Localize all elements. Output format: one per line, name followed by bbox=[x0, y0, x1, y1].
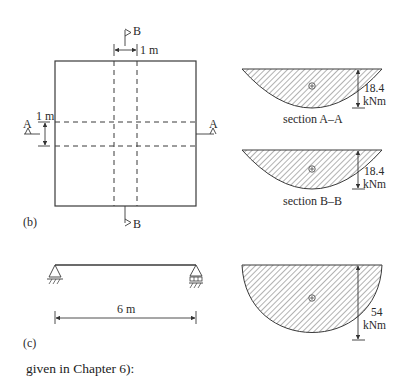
plate-outline bbox=[55, 61, 196, 206]
moment-unit-a-a: kNm bbox=[363, 95, 386, 107]
moment-diagram-a-a bbox=[242, 69, 382, 108]
figure-b-label: (b) bbox=[23, 216, 37, 228]
moment-unit-b-b: kNm bbox=[363, 178, 386, 190]
section-b-top-flag bbox=[125, 29, 131, 36]
section-b-b-caption: section B–B bbox=[283, 195, 342, 207]
section-b-top-label: B bbox=[133, 25, 141, 37]
figure-c-label: (c) bbox=[23, 337, 36, 349]
roller-support-icon bbox=[190, 265, 202, 276]
moment-unit-beam: kNm bbox=[363, 319, 386, 331]
moment-diagram-b-b bbox=[242, 150, 382, 189]
section-b-bottom-label: B bbox=[133, 218, 141, 230]
plate-plan bbox=[24, 29, 216, 226]
section-a-right-label: A bbox=[209, 118, 218, 130]
dim-horizontal-label: 1 m bbox=[140, 44, 158, 56]
diagram-canvas bbox=[0, 0, 408, 384]
moment-value-a-a: 18.4 bbox=[364, 82, 384, 94]
moment-diagram-beam bbox=[242, 265, 382, 340]
span-label: 6 m bbox=[117, 303, 135, 315]
pin-support-icon bbox=[49, 265, 61, 277]
dim-vertical-label: 1 m bbox=[36, 110, 54, 122]
moment-value-b-b: 18.4 bbox=[364, 165, 384, 177]
section-a-left-label: A bbox=[23, 118, 32, 130]
section-b-bottom-flag bbox=[125, 219, 131, 226]
moment-value-beam: 54 bbox=[371, 306, 383, 318]
body-text: given in Chapter 6): bbox=[26, 361, 134, 377]
section-a-a-caption: section A–A bbox=[283, 113, 343, 125]
